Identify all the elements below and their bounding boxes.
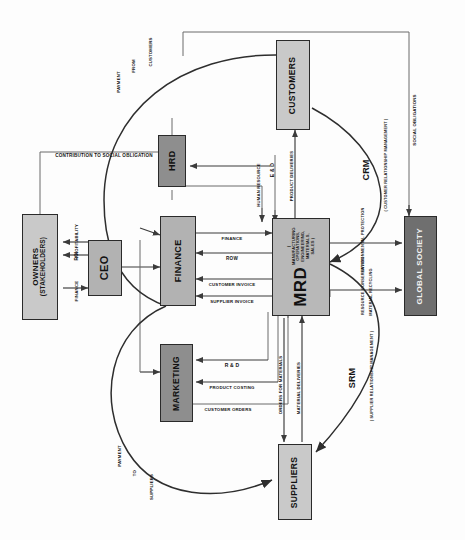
node-suppliers-label: SUPPLIERS bbox=[291, 456, 300, 508]
node-ceo[interactable]: CEO bbox=[88, 240, 122, 296]
node-marketing[interactable]: MARKETING bbox=[160, 344, 193, 422]
edge-label-supplier-invoice: SUPPLIER INVOICE bbox=[210, 299, 254, 304]
edge-label-orders-for-materials: ORDERS FOR MATERIALS bbox=[278, 356, 283, 415]
edge-label-roi: ROI bbox=[74, 252, 79, 261]
node-customers-label: CUSTOMERS bbox=[289, 56, 298, 114]
edge-label-material-recycling: MATERIAL RECYCLING bbox=[368, 268, 373, 315]
curve-label-payment-from-customers-3: CUSTOMERS bbox=[148, 37, 153, 66]
node-marketing-label: MARKETING bbox=[172, 355, 181, 410]
edge-label-product-costing: PRODUCT COSTING bbox=[209, 385, 254, 390]
curve-label-payment-from-customers-1: PAYMENT bbox=[116, 71, 121, 93]
node-global-society-label: GLOBAL SOCIETY bbox=[416, 228, 424, 305]
diagram-connectors bbox=[0, 0, 465, 540]
edge-label-customer-invoice: CUSTOMER INVOICE bbox=[209, 282, 256, 287]
edge-label-contribution-social-obligation: CONTRIBUTION TO SOCIAL OBLIGATION bbox=[55, 153, 153, 158]
curve-label-payment-from-customers-2: FROM bbox=[131, 59, 136, 72]
node-owners-sublabel: (STAKEHOLDERS) bbox=[41, 237, 48, 296]
node-finance-label: FINANCE bbox=[173, 240, 182, 283]
edge-label-e-and-d: E & D bbox=[269, 163, 275, 177]
edge-label-row: ROW bbox=[226, 256, 238, 261]
node-mrd-sublabel: ( MANUFACTURING OPERATIONS, ENGINEERING,… bbox=[287, 227, 315, 264]
edge-label-social-obligations: SOCIAL OBLIGATIONS bbox=[412, 94, 417, 146]
diagram-canvas: OWNERS (STAKEHOLDERS) CEO HRD FINANCE MA… bbox=[0, 0, 465, 540]
curve-label-payment-to-suppliers-3: SUPPLIERS bbox=[149, 474, 154, 500]
edge-label-resource-conservation: RESOURCE CONSERVATION bbox=[360, 257, 365, 315]
edge-mrd-society bbox=[330, 243, 402, 297]
node-hrd-label: HRD bbox=[167, 151, 176, 172]
node-hrd[interactable]: HRD bbox=[158, 135, 186, 187]
edge-label-finance-mrd: FINANCE bbox=[222, 236, 243, 241]
edge-label-material-deliveries: MATERIAL DELIVERIES bbox=[296, 362, 301, 414]
edge-label-rnd: R & D bbox=[225, 362, 240, 368]
node-mrd[interactable]: MRD ( MANUFACTURING OPERATIONS, ENGINEER… bbox=[272, 218, 330, 316]
node-suppliers[interactable]: SUPPLIERS bbox=[278, 444, 312, 520]
node-ceo-label: CEO bbox=[99, 255, 111, 280]
node-global-society[interactable]: GLOBAL SOCIETY bbox=[404, 216, 437, 316]
curve-label-crm: CRM bbox=[361, 159, 371, 180]
curve-label-srm: SRM bbox=[347, 368, 357, 389]
edge-label-human-resource: HUMAN RESOURCE bbox=[256, 163, 261, 206]
node-owners[interactable]: OWNERS (STAKEHOLDERS) bbox=[22, 214, 58, 320]
node-mrd-label: MRD bbox=[292, 267, 310, 307]
curve-label-payment-to-suppliers-1: PAYMENT bbox=[117, 445, 122, 467]
node-customers[interactable]: CUSTOMERS bbox=[276, 40, 310, 130]
curve-label-crm-full: ( CUSTOMER RELATIONSHIP MANAGEMENT ) bbox=[383, 118, 388, 211]
curve-label-srm-full: ( SUPPLIER RELATIONSHIP MANAGEMENT ) bbox=[369, 331, 374, 422]
edge-label-product-deliveries: PRODUCT DELIVERIES bbox=[289, 151, 294, 201]
curve-label-payment-to-suppliers-2: TO bbox=[132, 470, 137, 476]
node-finance[interactable]: FINANCE bbox=[160, 216, 196, 306]
edge-label-customer-orders: CUSTOMER ORDERS bbox=[204, 407, 251, 412]
edge-into-finance-top bbox=[140, 228, 160, 235]
edge-finance-mrd bbox=[196, 233, 272, 296]
edge-label-finance-ceo: FINANCE bbox=[74, 281, 79, 302]
